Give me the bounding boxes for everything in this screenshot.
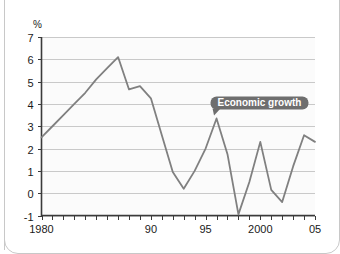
x-axis-tick-label: 1980 <box>29 223 53 235</box>
y-axis-tick-label: 7 <box>27 32 33 44</box>
y-axis-tick-labels: 76543210-1 <box>24 32 34 223</box>
x-axis-tick-label: 95 <box>199 223 211 235</box>
x-axis-tick-labels: 19809095200005 <box>29 223 321 235</box>
y-axis-tick-label: 3 <box>27 121 33 133</box>
y-axis-tick-label: 0 <box>27 188 33 200</box>
y-axis-tick-label: -1 <box>24 211 34 223</box>
y-axis-unit-label: % <box>33 19 42 30</box>
callout-label: Economic growth <box>218 97 302 108</box>
x-axis-tick-label: 05 <box>309 223 321 235</box>
x-axis-tick-label: 2000 <box>248 223 272 235</box>
x-axis-tick-label: 90 <box>145 223 157 235</box>
y-axis-tick-label: 1 <box>27 166 33 178</box>
y-axis-tick-label: 5 <box>27 77 33 89</box>
y-axis-tick-label: 6 <box>27 54 33 66</box>
y-axis-tick-label: 2 <box>27 144 33 156</box>
y-axis-tick-label: 4 <box>27 99 33 111</box>
